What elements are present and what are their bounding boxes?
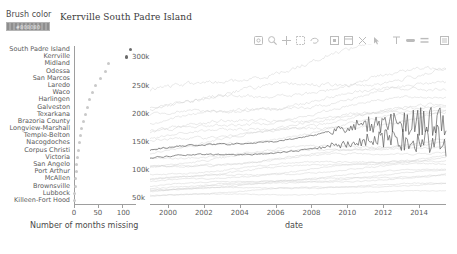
- bokeh-dashboard: Brush color #808080 Kerrville South Padr…: [0, 0, 457, 254]
- timeseries-y-tick-label: 250k: [132, 82, 149, 90]
- timeseries-line[interactable]: [150, 183, 446, 191]
- dotplot-point[interactable]: [75, 170, 78, 173]
- dotplot-x-tick: [122, 205, 123, 208]
- timeseries-x-tick-label: 2006: [265, 209, 287, 217]
- dotplot-point[interactable]: [107, 62, 110, 65]
- timeseries-line[interactable]: [150, 66, 446, 110]
- timeseries-y-tick-label: 300k: [132, 53, 149, 61]
- timeseries-y-tick-label: 100k: [132, 166, 149, 174]
- timeseries-canvas[interactable]: [150, 44, 450, 210]
- dotplot-point-selected[interactable]: [129, 48, 132, 51]
- dotplot-point[interactable]: [86, 106, 89, 109]
- timeseries-x-tick-label: 2012: [372, 209, 394, 217]
- dotplot-point[interactable]: [73, 199, 76, 202]
- dotplot-x-tick-label: 50: [93, 209, 103, 217]
- timeseries-y-tick-label: 50k: [132, 194, 145, 202]
- timeseries-x-tick-label: 2004: [229, 209, 251, 217]
- dotplot-y-axis: [74, 46, 75, 204]
- brush-color-label: Brush color: [6, 10, 66, 20]
- timeseries-line[interactable]: [150, 68, 446, 108]
- timeseries-line[interactable]: [150, 190, 446, 196]
- dotplot-x-tick: [98, 205, 99, 208]
- dotplot-x-axis-title: Number of months missing: [30, 221, 138, 230]
- timeseries-x-tick: [347, 205, 348, 208]
- brush-color-value: #808080: [16, 24, 41, 30]
- timeseries-line-selected[interactable]: [150, 125, 446, 158]
- dotplot-point[interactable]: [77, 149, 80, 152]
- timeseries-line[interactable]: [150, 183, 446, 196]
- dotplot-point[interactable]: [94, 84, 97, 87]
- timeseries-line[interactable]: [150, 44, 446, 92]
- timeseries-line[interactable]: [150, 87, 446, 115]
- timeseries-x-tick-label: 2008: [300, 209, 322, 217]
- dotplot-point[interactable]: [84, 113, 87, 116]
- dotplot-x-tick-label: 0: [69, 209, 79, 217]
- months-missing-dotplot[interactable]: South Padre IslandKerrvilleMidlandOdessa…: [0, 44, 138, 210]
- timeseries-y-tick-label: 150k: [132, 138, 149, 146]
- dotplot-x-tick-label: 100: [117, 209, 127, 217]
- timeseries-x-tick: [419, 205, 420, 208]
- dotplot-point[interactable]: [73, 192, 76, 195]
- timeseries-y-tick-label: 200k: [132, 110, 149, 118]
- dotplot-point[interactable]: [88, 98, 91, 101]
- dotplot-point[interactable]: [80, 127, 83, 130]
- page-title: Kerrville South Padre Island: [60, 12, 192, 22]
- brush-color-widget[interactable]: Brush color #808080: [6, 10, 66, 31]
- dotplot-point[interactable]: [91, 91, 94, 94]
- timeseries-x-tick-label: 2002: [193, 209, 215, 217]
- dotplot-x-axis: [74, 204, 136, 205]
- dotplot-point[interactable]: [104, 70, 107, 73]
- timeseries-x-axis-title: date: [285, 221, 303, 230]
- timeseries-x-tick: [311, 205, 312, 208]
- dotplot-x-tick: [74, 205, 75, 208]
- dotplot-point[interactable]: [74, 177, 77, 180]
- timeseries-line[interactable]: [150, 81, 446, 125]
- dotplot-point[interactable]: [75, 163, 78, 166]
- dotplot-point-selected[interactable]: [125, 55, 128, 58]
- dotplot-category-label[interactable]: Killeen-Fort Hood: [0, 197, 70, 204]
- dotplot-point[interactable]: [99, 77, 102, 80]
- dotplot-point[interactable]: [76, 156, 79, 159]
- dotplot-point[interactable]: [74, 185, 77, 188]
- timeseries-x-axis: [150, 204, 446, 205]
- timeseries-x-tick: [383, 205, 384, 208]
- timeseries-x-tick-label: 2000: [157, 209, 179, 217]
- employment-timeseries[interactable]: 50k100k150k200k250k300k 2000200220042006…: [150, 44, 450, 210]
- timeseries-x-tick: [168, 205, 169, 208]
- dotplot-point[interactable]: [79, 134, 82, 137]
- dotplot-point[interactable]: [78, 141, 81, 144]
- timeseries-line[interactable]: [150, 152, 446, 167]
- timeseries-x-tick: [240, 205, 241, 208]
- timeseries-x-tick-label: 2014: [408, 209, 430, 217]
- timeseries-x-tick-label: 2010: [336, 209, 358, 217]
- brush-color-swatch[interactable]: #808080: [6, 22, 50, 31]
- timeseries-x-tick: [276, 205, 277, 208]
- dotplot-point[interactable]: [82, 120, 85, 123]
- timeseries-x-tick: [204, 205, 205, 208]
- timeseries-line[interactable]: [150, 169, 446, 186]
- timeseries-line[interactable]: [150, 106, 446, 139]
